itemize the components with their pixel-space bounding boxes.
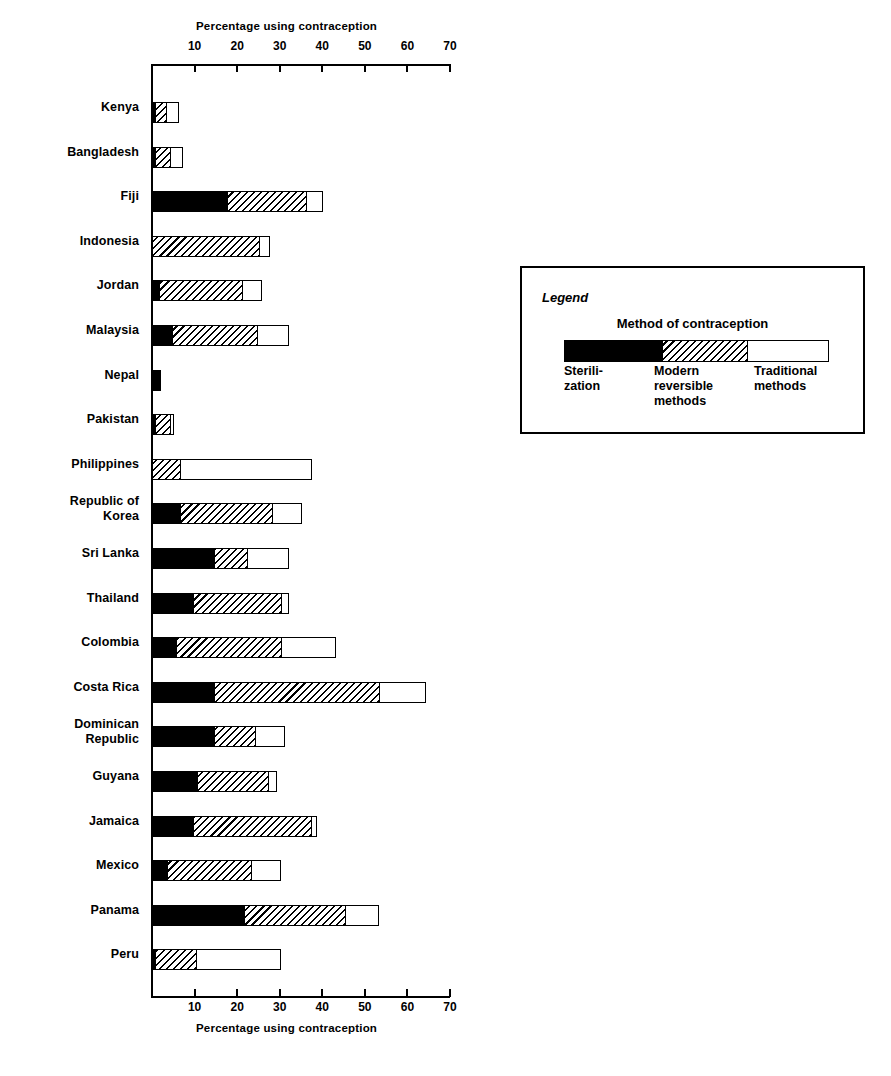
bar-row: Indonesia: [0, 234, 520, 258]
bar-segment-modern: [244, 905, 346, 926]
axis-tick-label-top-10: 10: [188, 39, 201, 53]
category-label: Kenya: [9, 100, 139, 115]
axis-tick-bottom-30: [279, 989, 281, 997]
legend-label-modern: Modern reversible methods: [654, 364, 754, 409]
bottom-axis-line: [152, 996, 450, 998]
stacked-bar: [152, 593, 289, 614]
bar-segment-traditional: [268, 771, 277, 792]
axis-tick-label-bottom-60: 60: [401, 1000, 414, 1014]
bar-row: Mexico: [0, 858, 520, 882]
stacked-bar: [152, 860, 281, 881]
bar-segment-modern: [193, 816, 312, 837]
axis-tick-label-top-40: 40: [316, 39, 329, 53]
axis-tick-label-bottom-70: 70: [443, 1000, 456, 1014]
stacked-bar: [152, 325, 289, 346]
legend-box: Legend Method of contraception Sterili- …: [520, 266, 865, 434]
axis-tick-bottom-20: [236, 989, 238, 997]
bar-segment-modern: [214, 726, 257, 747]
category-label: Malaysia: [9, 323, 139, 338]
bar-segment-modern: [180, 503, 274, 524]
bar-segment-sterilization: [152, 548, 216, 569]
axis-tick-label-bottom-40: 40: [316, 1000, 329, 1014]
stacked-bar: [152, 637, 336, 658]
stacked-bar: [152, 682, 426, 703]
bar-segment-traditional: [306, 191, 323, 212]
bar-row: Jamaica: [0, 814, 520, 838]
stacked-bar: [152, 548, 289, 569]
bar-row: Peru: [0, 947, 520, 971]
stacked-bar: [152, 280, 262, 301]
stacked-bar: [152, 191, 323, 212]
axis-tick-label-top-20: 20: [230, 39, 243, 53]
stacked-bar: [152, 503, 302, 524]
category-label: Peru: [9, 947, 139, 962]
bar-segment-traditional: [281, 637, 336, 658]
bar-row: Republic of Korea: [0, 501, 520, 525]
axis-tick-label-bottom-50: 50: [358, 1000, 371, 1014]
bar-segment-traditional: [257, 325, 289, 346]
bar-row: Guyana: [0, 769, 520, 793]
bar-row: Pakistan: [0, 412, 520, 436]
axis-tick-bottom-60: [406, 989, 408, 997]
category-label: Jamaica: [9, 814, 139, 829]
category-label: Panama: [9, 903, 139, 918]
bar-segment-modern: [227, 191, 308, 212]
bar-row: Philippines: [0, 457, 520, 481]
bar-segment-traditional: [242, 280, 261, 301]
bar-segment-traditional: [255, 726, 285, 747]
axis-tick-top-70: [449, 64, 451, 72]
bar-row: Fiji: [0, 189, 520, 213]
chart-plot-area: Percentage using contraception 102030405…: [0, 0, 520, 1076]
legend-label-traditional: Traditional methods: [754, 364, 836, 409]
bar-segment-traditional: [379, 682, 426, 703]
bar-segment-traditional: [281, 593, 290, 614]
bar-segment-sterilization: [152, 771, 199, 792]
bar-row: Costa Rica: [0, 680, 520, 704]
bar-segment-modern: [193, 593, 282, 614]
bar-segment-traditional: [170, 147, 183, 168]
legend-swatch-sterilization: [564, 340, 664, 362]
bar-row: Colombia: [0, 635, 520, 659]
bar-segment-traditional: [259, 236, 270, 257]
stacked-bar: [152, 949, 281, 970]
category-label: Jordan: [9, 278, 139, 293]
bar-segment-modern: [152, 459, 182, 480]
axis-tick-top-30: [279, 64, 281, 72]
axis-tick-top-20: [236, 64, 238, 72]
axis-tick-top-40: [321, 64, 323, 72]
bar-segment-traditional: [170, 414, 174, 435]
bar-segment-sterilization: [152, 325, 173, 346]
legend-label-sterilization: Sterili- zation: [564, 364, 654, 409]
bar-segment-sterilization: [152, 816, 195, 837]
stacked-bar: [152, 816, 317, 837]
bar-row: Nepal: [0, 368, 520, 392]
category-label: Mexico: [9, 858, 139, 873]
axis-tick-top-50: [364, 64, 366, 72]
bar-segment-modern: [167, 860, 252, 881]
bar-row: Dominican Republic: [0, 724, 520, 748]
category-label: Guyana: [9, 769, 139, 784]
stacked-bar: [152, 370, 161, 391]
bar-segment-modern: [176, 637, 282, 658]
bar-segment-sterilization: [152, 726, 216, 747]
bar-segment-traditional: [251, 860, 281, 881]
bar-segment-sterilization: [152, 905, 246, 926]
stacked-bar: [152, 459, 312, 480]
category-label: Nepal: [9, 368, 139, 383]
bar-segment-sterilization: [152, 191, 229, 212]
axis-tick-label-bottom-30: 30: [273, 1000, 286, 1014]
category-label: Costa Rica: [9, 680, 139, 695]
bar-segment-modern: [197, 771, 269, 792]
category-label: Philippines: [9, 457, 139, 472]
category-label: Fiji: [9, 189, 139, 204]
category-label: Thailand: [9, 591, 139, 606]
bottom-axis-title: Percentage using contraception: [196, 1022, 377, 1034]
legend-labels: Sterili- zation Modern reversible method…: [564, 364, 836, 409]
stacked-bar: [152, 771, 277, 792]
axis-tick-label-top-60: 60: [401, 39, 414, 53]
stacked-bar: [152, 147, 183, 168]
category-label: Indonesia: [9, 234, 139, 249]
bar-segment-traditional: [196, 949, 281, 970]
bar-segment-traditional: [247, 548, 290, 569]
axis-tick-bottom-10: [194, 989, 196, 997]
